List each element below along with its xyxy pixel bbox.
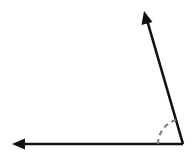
angle-diagram (0, 0, 194, 163)
